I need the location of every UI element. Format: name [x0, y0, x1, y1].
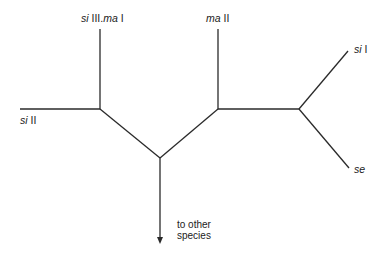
label-se: se: [354, 163, 365, 175]
phylogenetic-tree-diagram: si II si III.ma I ma II si I se to other…: [0, 0, 388, 255]
tree-lines: [0, 0, 388, 255]
label-line-1: to other: [177, 219, 211, 230]
branch-se: [299, 109, 349, 168]
label-to-other-species: to other species: [177, 219, 211, 241]
label-si-III-ma-I: si III.ma I: [81, 12, 124, 24]
label-si-II: si II: [20, 114, 36, 126]
branch-mid-internal: [160, 109, 218, 158]
label-line-2: species: [177, 230, 211, 241]
arrow-down-icon: [157, 237, 163, 244]
branch-left-internal: [100, 109, 160, 158]
label-si-I: si I: [354, 43, 367, 55]
label-ma-II: ma II: [206, 12, 229, 24]
branch-si-I: [299, 51, 348, 109]
